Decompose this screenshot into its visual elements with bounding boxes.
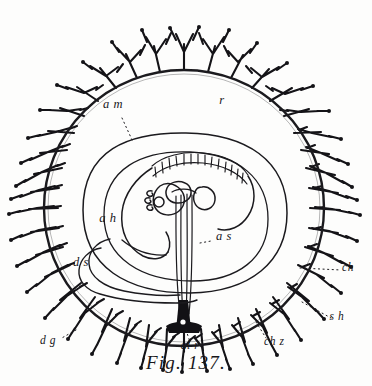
- label-villus-sheath: s h: [330, 310, 345, 322]
- label-chorion: ch: [342, 261, 354, 273]
- label-decidua-glands: d g: [40, 334, 56, 347]
- label-chorion-space: r: [219, 93, 224, 107]
- figure-caption: Fig. 137.: [0, 352, 372, 374]
- label-allantois-head: a h: [99, 211, 116, 225]
- label-allantoic-stalk: al r: [181, 339, 200, 351]
- label-amnion: a m: [103, 97, 123, 111]
- label-chorion-zone: ch z: [264, 335, 285, 347]
- embryo-placenta-engraving: a m r a h a s d s ch s h d g al r ch z: [0, 0, 372, 386]
- label-amniotic-sac: a s: [216, 229, 232, 243]
- figure-plate: a m r a h a s d s ch s h d g al r ch z F…: [0, 0, 372, 386]
- label-yolk-sac: d s: [73, 255, 89, 269]
